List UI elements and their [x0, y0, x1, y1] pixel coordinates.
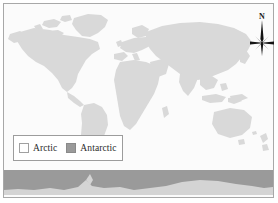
- legend-entry-antarctic[interactable]: Antarctic: [66, 143, 116, 153]
- world-map: [4, 4, 273, 197]
- map-frame: Arctic Antarctic: [3, 3, 274, 198]
- compass-rose: N: [250, 12, 274, 56]
- compass-rose-icon: [250, 20, 274, 56]
- legend-label-arctic: Arctic: [33, 143, 57, 153]
- legend-label-antarctic: Antarctic: [80, 143, 116, 153]
- arctic-swatch: [19, 143, 29, 153]
- legend-entry-arctic[interactable]: Arctic: [19, 143, 57, 153]
- antarctic-band: [4, 170, 273, 195]
- tasmania-shape: [238, 139, 245, 145]
- antarctic-swatch: [66, 143, 76, 153]
- map-figure: Arctic Antarctic N: [0, 0, 278, 203]
- map-legend: Arctic Antarctic: [13, 135, 123, 161]
